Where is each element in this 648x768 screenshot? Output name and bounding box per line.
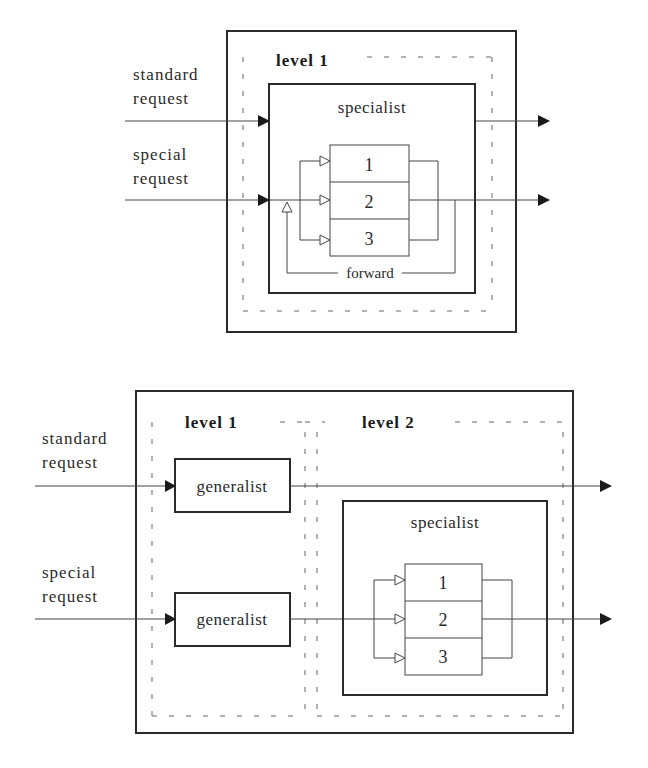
top-unit-2: 2 — [365, 192, 374, 212]
top-standard-label-2: request — [133, 89, 189, 108]
top-unit-1: 1 — [365, 155, 374, 175]
bottom-standard-label-1: standard — [42, 429, 108, 448]
top-special-label-1: special — [133, 145, 187, 164]
bottom-unit1-arrow-icon — [395, 575, 405, 585]
top-sub-units: 1 2 3 — [330, 145, 409, 256]
bottom-specialist-label: specialist — [411, 513, 479, 532]
bottom-special-label-1: special — [42, 563, 96, 582]
top-unit-3: 3 — [365, 229, 374, 249]
bottom-generalist-label-2: generalist — [196, 610, 267, 629]
top-special-output-arrow-icon — [538, 194, 550, 206]
bottom-unit-1: 1 — [439, 573, 448, 593]
bottom-unit-2: 2 — [439, 610, 448, 630]
bottom-unit3-arrow-icon — [395, 653, 405, 663]
top-unit1-arrow-icon — [320, 156, 330, 166]
bottom-unit2-arrow-icon — [395, 614, 405, 624]
bottom-outer-box — [136, 391, 573, 733]
top-standard-output-arrow-icon — [538, 115, 550, 127]
top-level1-label: level 1 — [276, 51, 329, 70]
top-forward-arrow-icon — [282, 202, 292, 212]
top-unit2-arrow-icon — [320, 195, 330, 205]
top-forward-label: forward — [346, 265, 394, 281]
bottom-sub-units: 1 2 3 — [405, 564, 482, 675]
bottom-generalist-label-1: generalist — [196, 477, 267, 496]
top-specialist-label: specialist — [338, 98, 406, 117]
bottom-level1-label: level 1 — [185, 413, 238, 432]
bottom-unit-3: 3 — [439, 647, 448, 667]
bottom-level2-label: level 2 — [362, 413, 415, 432]
top-unit3-arrow-icon — [320, 235, 330, 245]
bottom-diagram: level 1 level 2 standard request special… — [35, 391, 612, 733]
bottom-special-label-2: request — [42, 587, 98, 606]
bottom-special-output-arrow-icon — [600, 613, 612, 625]
bottom-standard-label-2: request — [42, 453, 98, 472]
bottom-standard-output-arrow-icon — [600, 480, 612, 492]
diagram-canvas: level 1 specialist standard request spec… — [0, 0, 648, 768]
top-standard-label-1: standard — [133, 65, 199, 84]
top-special-label-2: request — [133, 169, 189, 188]
top-diagram: level 1 specialist standard request spec… — [125, 31, 550, 332]
